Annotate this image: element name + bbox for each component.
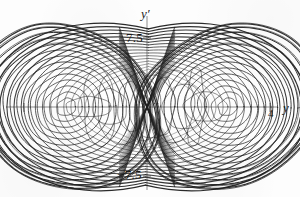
y-axis-label: y <box>283 101 289 114</box>
tick-label-y-positive: 4 <box>268 108 274 119</box>
phase-portrait-figure: 7.5 −7.5 4 y′ y <box>0 0 300 197</box>
y-prime-axis-label: y′ <box>141 7 150 20</box>
tick-label-yprime-negative: −7.5 <box>117 168 142 181</box>
tick-label-yprime-positive: 7.5 <box>126 31 143 44</box>
attractor-plot <box>0 0 300 197</box>
